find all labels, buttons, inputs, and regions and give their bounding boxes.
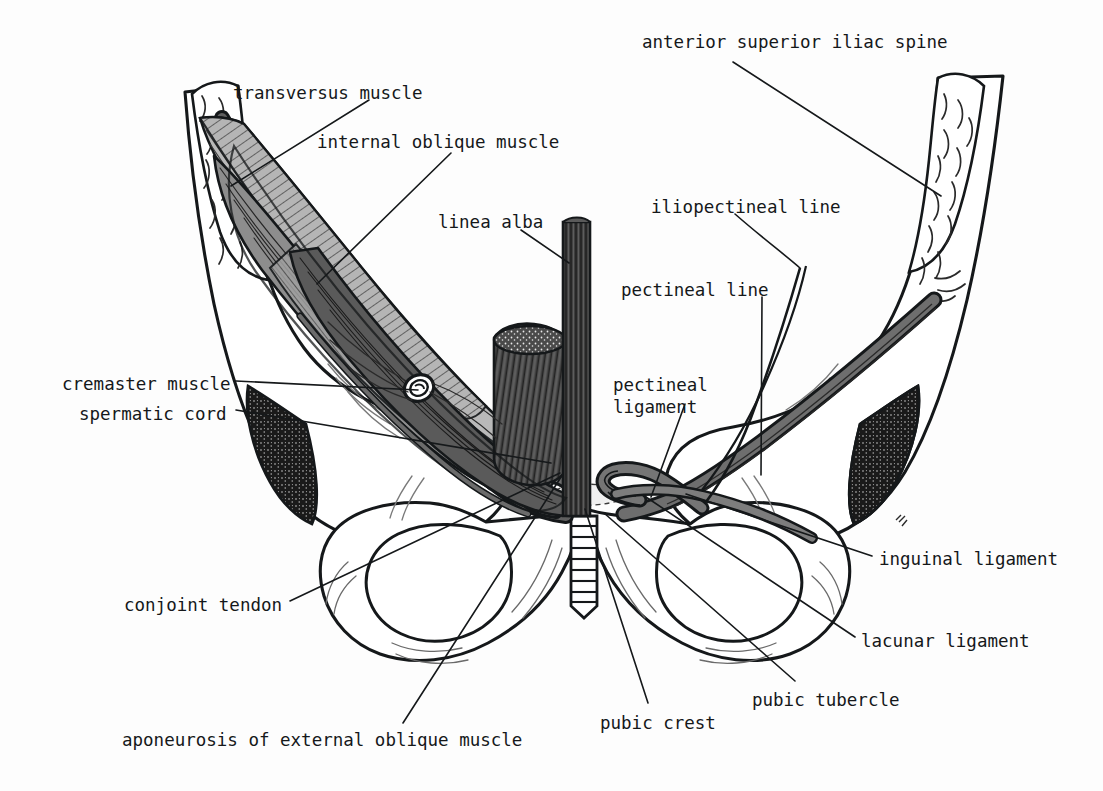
label-inguinal-ligament: inguinal ligament [879,549,1058,570]
figure-illustration [0,0,1103,791]
label-conjoint-tendon: conjoint tendon [124,595,282,616]
rectus-stump-cut-surface [494,326,566,354]
right-hemipelvis [585,74,1003,664]
label-transversus-muscle: transversus muscle [233,83,423,104]
linea-alba-body [563,222,590,516]
label-internal-oblique-muscle: internal oblique muscle [317,132,559,153]
label-cremaster-muscle: cremaster muscle [62,374,231,395]
label-linea-alba: linea alba [438,212,543,233]
leader-internal-oblique-muscle [317,153,451,284]
artist-mark [896,515,907,526]
label-iliopectineal-line: iliopectineal line [651,197,841,218]
label-aponeurosis-of-external-oblique-muscle: aponeurosis of external oblique muscle [122,730,522,751]
anatomical-figure: anterior superior iliac spine transversu… [0,0,1103,791]
illustration-root [185,62,1003,723]
leader-anterior-superior-iliac-spine [733,62,941,196]
linea-alba-top-cut [563,218,590,223]
label-pectineal-ligament: pectineal ligament [613,374,708,418]
label-pectineal-line: pectineal line [621,280,769,301]
label-spermatic-cord: spermatic cord [79,404,227,425]
label-pubic-tubercle: pubic tubercle [752,690,900,711]
leader-pectineal-line [761,297,762,475]
label-anterior-superior-iliac-spine: anterior superior iliac spine [642,32,948,53]
label-lacunar-ligament: lacunar ligament [861,631,1030,652]
label-pubic-crest: pubic crest [600,713,716,734]
leader-iliopectineal-line [735,214,800,268]
